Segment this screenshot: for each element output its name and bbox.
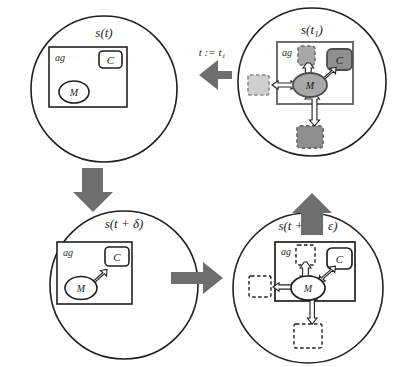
agent-label-bottom-right: ag [281, 246, 291, 257]
panel-top-left: s(t) ag C M [31, 16, 177, 162]
memory-label-bottom-left: M [76, 283, 86, 294]
controller-label-bottom-left: C [113, 251, 121, 263]
external-box-bottom-bottom-right [294, 324, 322, 348]
agent-label-top-right: ag [282, 47, 292, 58]
external-box-left-top-right [248, 75, 269, 95]
controller-label-bottom-right: C [336, 253, 344, 265]
external-box-bottom-top-right [297, 126, 323, 148]
panel-title-bottom-left: s(t + δ) [105, 216, 144, 231]
external-box-left-bottom-right [249, 276, 271, 297]
panel-title-top-left: s(t) [95, 25, 112, 40]
panel-bottom-right: s(t + δ + ε) ag C M [233, 213, 383, 363]
panel-title-top-right: s(t₁) [301, 22, 323, 37]
memory-label-top-left: M [69, 87, 79, 98]
agent-label-bottom-left: ag [63, 247, 73, 258]
sensor-box-top-inner-top-right [298, 46, 315, 65]
block-arrow-down [73, 168, 113, 212]
panel-top-right: s(t₁) ag C M [238, 8, 386, 156]
transition-arrow-left [73, 168, 113, 212]
block-arrow-left [199, 60, 232, 90]
diagram-canvas: s(t) ag C M s(t₁) ag C M s(t + δ) [0, 0, 400, 367]
memory-label-bottom-right: M [303, 283, 313, 294]
panel-bottom-left: s(t + δ) ag C M [50, 211, 198, 359]
transition-arrow-top: t := t₁ [199, 46, 232, 90]
controller-label-top-right: C [336, 54, 344, 66]
transition-label-top: t := t₁ [199, 46, 226, 58]
memory-label-top-right: M [305, 80, 315, 91]
agent-label-top-left: ag [55, 52, 65, 63]
controller-label-top-left: C [107, 54, 115, 66]
